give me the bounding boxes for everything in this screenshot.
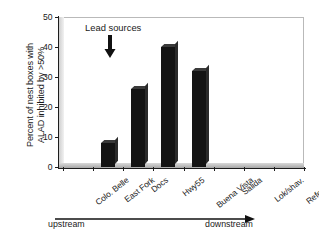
bar-side-face — [145, 83, 148, 164]
bar-slot[interactable] — [244, 17, 274, 167]
x-axis-tick-label: Hwy55 — [180, 175, 206, 198]
y-axis-title-line-1: Percent of nest boxes with — [25, 43, 36, 147]
upstream-label: upstream — [48, 219, 85, 229]
bar-slot[interactable] — [214, 17, 244, 167]
y-axis-title-line-2: ALAD inhibited by >50% — [36, 47, 47, 143]
bar-side-face — [206, 65, 209, 164]
bar[interactable] — [131, 89, 145, 167]
y-axis-tick-mark — [55, 137, 59, 138]
y-axis-title: Percent of nest boxes with ALAD inhibite… — [21, 15, 51, 175]
bar-slot[interactable] — [153, 17, 183, 167]
x-axis-tick-mark — [63, 167, 64, 171]
x-axis-tick-label: Reference — [304, 175, 319, 206]
bar-slot[interactable] — [184, 17, 214, 167]
bar[interactable] — [192, 71, 206, 167]
bar-series — [63, 17, 304, 167]
y-axis-tick-label: 0 — [48, 162, 53, 172]
bar[interactable] — [101, 143, 115, 167]
y-axis-tick: 20 — [43, 102, 58, 112]
y-axis-tick: 10 — [43, 132, 58, 142]
y-axis-tick-mark — [55, 167, 59, 168]
y-axis-tick-mark — [55, 17, 59, 18]
bar[interactable] — [161, 47, 175, 167]
bar-slot[interactable] — [63, 17, 93, 167]
y-axis-tick-label: 30 — [43, 72, 53, 82]
down-arrow-icon — [104, 35, 116, 59]
chart-figure: Percent of nest boxes with ALAD inhibite… — [0, 0, 319, 243]
lead-sources-label: Lead sources — [85, 22, 141, 33]
bar-side-face — [175, 41, 178, 164]
y-axis-line — [58, 16, 59, 168]
bar-side-face — [115, 137, 118, 164]
bar-slot[interactable] — [274, 17, 304, 167]
x-axis-tick-mark — [214, 167, 215, 171]
x-axis-tick-mark — [123, 167, 124, 171]
y-axis-tick: 50 — [43, 12, 58, 22]
x-axis-tick-label: Colo. Belle — [93, 175, 130, 207]
y-axis-tick: 40 — [43, 42, 58, 52]
x-axis-tick-mark — [153, 167, 154, 171]
y-axis-tick-label: 40 — [43, 42, 53, 52]
y-axis-tick: 30 — [43, 72, 58, 82]
x-axis-tick-mark — [93, 167, 94, 171]
x-axis-tick-mark — [274, 167, 275, 171]
bar-slot[interactable] — [123, 17, 153, 167]
y-axis-tick-label: 20 — [43, 102, 53, 112]
y-axis-tick-mark — [55, 47, 59, 48]
y-axis-tick-mark — [55, 107, 59, 108]
x-axis-tick-mark — [304, 167, 305, 171]
x-axis-tick-mark — [184, 167, 185, 171]
x-axis-tick-label: Lok/shav. — [273, 175, 306, 204]
y-axis-tick: 0 — [48, 162, 58, 172]
y-axis-tick-label: 10 — [43, 132, 53, 142]
y-axis-tick-mark — [55, 77, 59, 78]
x-axis-tick-mark — [244, 167, 245, 171]
y-axis-tick-label: 50 — [43, 12, 53, 22]
downstream-label: downstream — [205, 219, 253, 229]
